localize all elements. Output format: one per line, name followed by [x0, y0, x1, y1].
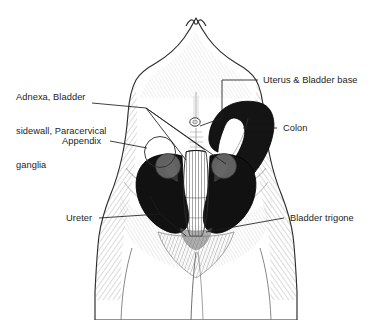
label-colon: Colon	[283, 123, 308, 134]
anatomical-figure: Adnexa, Bladder sidewall, Paracervical g…	[0, 0, 392, 320]
label-adnexa-line-1: Adnexa, Bladder	[16, 92, 107, 103]
navel	[190, 118, 200, 126]
label-ureter: Ureter	[66, 213, 92, 224]
label-adnexa-bladder-sidewall-paracervical-ganglia: Adnexa, Bladder sidewall, Paracervical g…	[16, 69, 107, 194]
label-adnexa-line-3: ganglia	[16, 160, 107, 171]
label-bladder-trigone: Bladder trigone	[290, 213, 354, 224]
uterus-bladder-base-column	[184, 151, 209, 237]
left-ganglion-marker	[156, 154, 181, 179]
label-uterus-bladder-base: Uterus & Bladder base	[263, 75, 358, 86]
right-ganglion-marker	[212, 154, 237, 179]
label-appendix: Appendix	[62, 136, 101, 147]
